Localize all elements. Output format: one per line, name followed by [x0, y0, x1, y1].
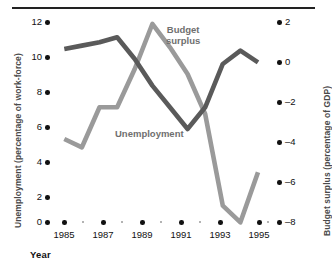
annotation-unemployment: Unemployment — [115, 128, 184, 139]
series-line-unemployment — [64, 37, 258, 129]
annotation-budget-line1: Budget — [167, 24, 200, 35]
annotation-budget-line2: surplus — [166, 35, 200, 46]
series-line-budget-surplus — [64, 24, 258, 222]
annotation-budget-surplus: Budget surplus — [166, 24, 200, 46]
